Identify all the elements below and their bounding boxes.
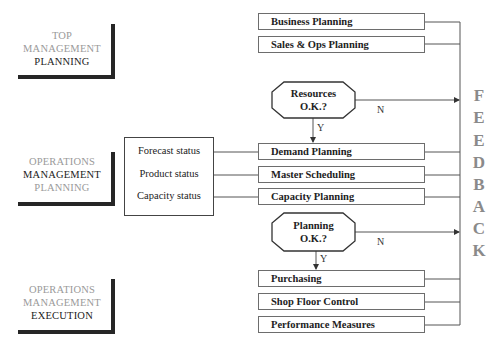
- box-capacity-planning[interactable]: Capacity Planning: [258, 188, 425, 205]
- decision-planning-line2: O.K.?: [272, 232, 355, 245]
- status-product: Product status: [125, 168, 213, 179]
- feedback-letter: D: [471, 153, 487, 173]
- decision-planning-yes-label: Y: [320, 253, 327, 264]
- bracket-horizontal: [18, 330, 115, 334]
- decision-resources-line2: O.K.?: [272, 100, 355, 113]
- box-business-planning[interactable]: Business Planning: [258, 13, 425, 30]
- bracket-horizontal: [18, 202, 115, 206]
- level-line: EXECUTION: [22, 309, 102, 322]
- decision-planning-line1: Planning: [272, 219, 355, 232]
- box-master-scheduling[interactable]: Master Scheduling: [258, 166, 425, 183]
- level-line: MANAGEMENT: [22, 168, 102, 181]
- status-capacity: Capacity status: [125, 190, 213, 201]
- level-label-operations-management-execution: OPERATIONS MANAGEMENT EXECUTION: [22, 283, 102, 322]
- box-purchasing[interactable]: Purchasing: [258, 270, 425, 287]
- bracket-vertical: [111, 24, 115, 79]
- status-forecast: Forecast status: [125, 145, 213, 156]
- feedback-letter: K: [471, 241, 487, 261]
- level-line: MANAGEMENT: [22, 296, 102, 309]
- box-shop-floor-control[interactable]: Shop Floor Control: [258, 293, 425, 310]
- bracket-vertical: [111, 279, 115, 334]
- decision-resources[interactable]: Resources O.K.?: [272, 87, 355, 113]
- feedback-letter: A: [471, 197, 487, 217]
- level-label-top-management-planning: TOP MANAGEMENT PLANNING: [22, 29, 102, 68]
- feedback-letter: E: [471, 108, 487, 128]
- bracket-horizontal: [18, 75, 115, 79]
- level-line: MANAGEMENT: [22, 42, 102, 55]
- bracket-vertical: [111, 152, 115, 206]
- level-line: PLANNING: [22, 181, 102, 194]
- feedback-letter: B: [471, 175, 487, 195]
- level-line: PLANNING: [22, 55, 102, 68]
- decision-planning[interactable]: Planning O.K.?: [272, 219, 355, 245]
- status-box: Forecast status Product status Capacity …: [124, 137, 214, 216]
- decision-planning-no-label: N: [377, 236, 384, 247]
- level-line: TOP: [22, 29, 102, 42]
- level-line: OPERATIONS: [22, 155, 102, 168]
- level-label-operations-management-planning: OPERATIONS MANAGEMENT PLANNING: [22, 155, 102, 194]
- box-performance-measures[interactable]: Performance Measures: [258, 316, 425, 333]
- box-sales-ops-planning[interactable]: Sales & Ops Planning: [258, 36, 425, 53]
- feedback-letter: E: [471, 131, 487, 151]
- feedback-letter: F: [471, 86, 487, 106]
- decision-resources-no-label: N: [377, 104, 384, 115]
- box-demand-planning[interactable]: Demand Planning: [258, 143, 425, 160]
- decision-resources-line1: Resources: [272, 87, 355, 100]
- decision-resources-yes-label: Y: [317, 122, 324, 133]
- feedback-letter: C: [471, 219, 487, 239]
- level-line: OPERATIONS: [22, 283, 102, 296]
